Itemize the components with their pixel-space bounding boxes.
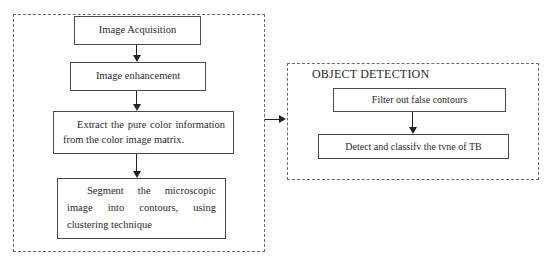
- step-segment: Segment the microscopic image into conto…: [57, 178, 226, 239]
- arrow-down-icon: [409, 127, 417, 134]
- step-label: Detect and classifv the tvne of TB: [345, 140, 481, 154]
- step-extract-color: Extract the pure color information from …: [53, 111, 234, 154]
- step-image-acquisition: Image Acquisition: [74, 16, 201, 45]
- connector-line: [265, 119, 280, 120]
- step-label: Segment the microscopic image into conto…: [58, 183, 225, 233]
- arrow-down-icon: [133, 171, 141, 178]
- step-label: Image Acquisition: [99, 23, 176, 37]
- arrow-4-line: [412, 112, 413, 127]
- arrow-3-line: [136, 154, 137, 171]
- arrow-down-icon: [133, 104, 141, 111]
- step-label: Image enhancement: [96, 69, 180, 83]
- step-image-enhancement: Image enhancement: [70, 62, 206, 91]
- step-filter-contours: Filter out false contours: [333, 88, 506, 112]
- step-detect-classify: Detect and classifv the tvne of TB: [318, 134, 509, 159]
- arrow-right-icon: [279, 115, 286, 123]
- object-detection-title: OBJECT DETECTION: [312, 67, 429, 82]
- step-label: Extract the pure color information from …: [54, 118, 233, 146]
- step-label: Filter out false contours: [372, 93, 467, 107]
- arrow-down-icon: [133, 55, 141, 62]
- arrow-2-line: [136, 91, 137, 104]
